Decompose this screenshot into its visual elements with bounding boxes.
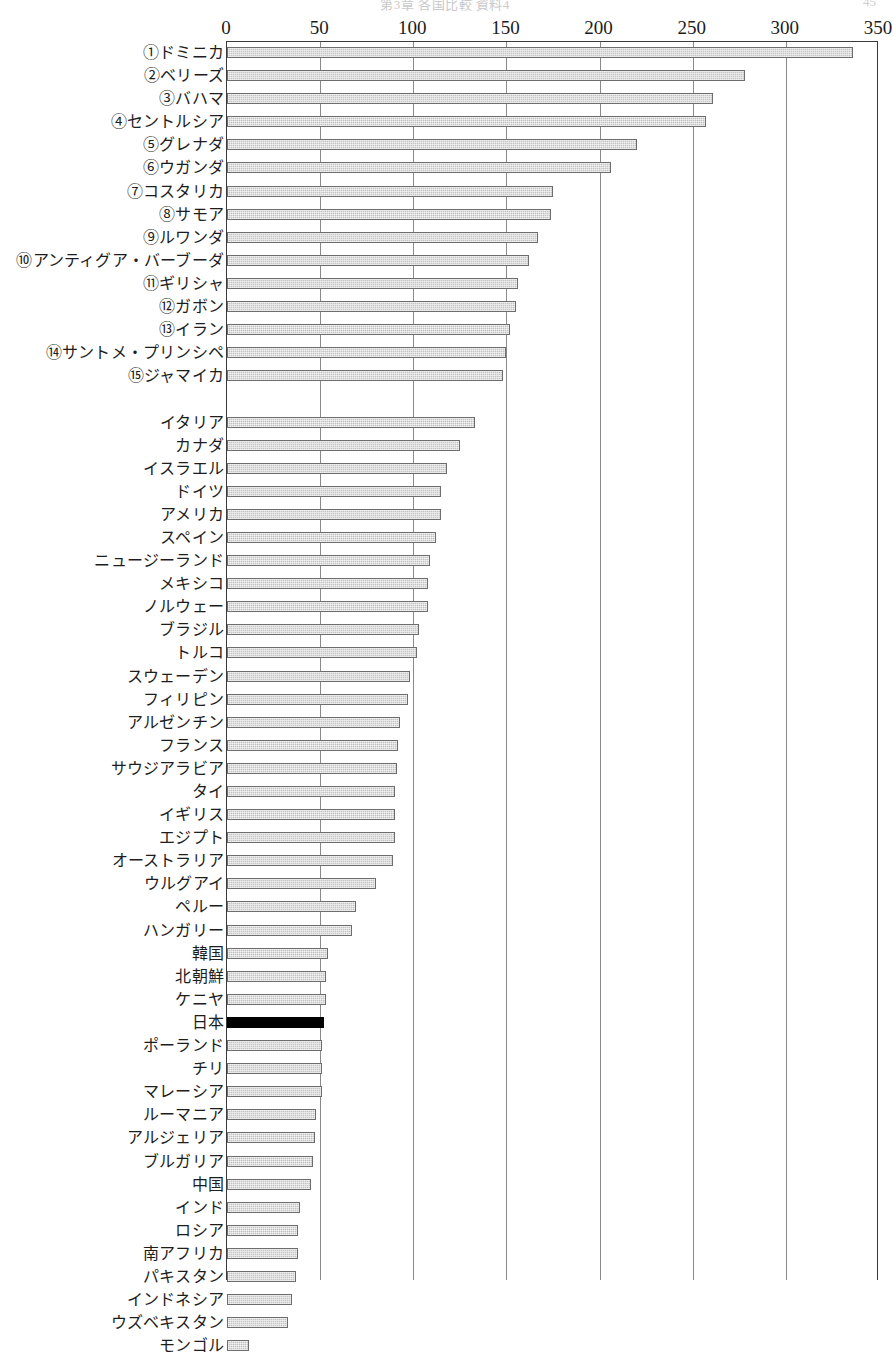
x-axis-tick-labels: 050100150200250300350 [0, 18, 890, 40]
bar-track [227, 1063, 322, 1074]
bar-label: サウジアラビア [111, 758, 224, 779]
bar-row: インドネシア [0, 1288, 890, 1311]
bar-row: マレーシア [0, 1080, 890, 1103]
bar-label: ⑦コスタリカ [127, 181, 224, 202]
bar-track [227, 93, 713, 104]
bar [227, 1156, 313, 1167]
bar-row: ②ベリーズ [0, 64, 890, 87]
bar-label: インドネシア [127, 1289, 224, 1310]
bar-track [227, 1040, 322, 1051]
bar [227, 486, 441, 497]
bar-label: イタリア [160, 412, 224, 433]
bar-label: モンゴル [159, 1335, 224, 1356]
bar-track [227, 832, 395, 843]
bar-track [227, 925, 352, 936]
bar-row: サウジアラビア [0, 757, 890, 780]
bar-track [227, 786, 395, 797]
bar-row: 北朝鮮 [0, 965, 890, 988]
bar-row: スウェーデン [0, 665, 890, 688]
bar-track [227, 209, 551, 220]
bar-label: ペルー [175, 896, 224, 917]
bar-label: 日本 [192, 1012, 224, 1033]
bar-track [227, 1132, 315, 1143]
bar [227, 1179, 311, 1190]
bar [227, 809, 395, 820]
bar-row: ⑫ガボン [0, 295, 890, 318]
bar-label: ドイツ [175, 481, 224, 502]
bar [227, 1225, 298, 1236]
bar-track [227, 324, 510, 335]
group-separator [0, 387, 890, 410]
bar [227, 971, 326, 982]
bar-label: ①ドミニカ [143, 42, 224, 63]
bar-track [227, 1248, 298, 1259]
bar-label: パキスタン [143, 1266, 224, 1287]
bar-track [227, 370, 503, 381]
bar-row: 南アフリカ [0, 1242, 890, 1265]
bar-label: ③バハマ [159, 88, 224, 109]
bar-track [227, 763, 397, 774]
bar-track [227, 624, 419, 635]
bar-row: オーストラリア [0, 849, 890, 872]
x-tick-label-50: 50 [310, 18, 329, 38]
bar-row: アメリカ [0, 503, 890, 526]
bar-row: チリ [0, 1057, 890, 1080]
bar-track [227, 948, 328, 959]
bar-label: タイ [192, 781, 224, 802]
bar-row: エジプト [0, 826, 890, 849]
bar-label: ニュージーランド [94, 550, 224, 571]
bar [227, 786, 395, 797]
bar-row: 日本 [0, 1011, 890, 1034]
bar [227, 209, 551, 220]
bar-track [227, 417, 475, 428]
bar-row: ③バハマ [0, 87, 890, 110]
bar-label: ⑮ジャマイカ [128, 365, 224, 386]
bar-row: ペルー [0, 895, 890, 918]
x-tick-label-150: 150 [491, 18, 520, 38]
bar [227, 901, 356, 912]
bar-row: イスラエル [0, 457, 890, 480]
bar-row: 中国 [0, 1173, 890, 1196]
bar [227, 855, 393, 866]
bar [227, 532, 436, 543]
bar-row: メキシコ [0, 572, 890, 595]
bar-row: ブルガリア [0, 1150, 890, 1173]
x-tick-label-200: 200 [584, 18, 613, 38]
bar-label: スウェーデン [127, 666, 224, 687]
bar-row: ドイツ [0, 480, 890, 503]
bar-row: フィリピン [0, 688, 890, 711]
bar-label: ⑪ギリシャ [143, 273, 224, 294]
bar [227, 717, 400, 728]
bar-track [227, 647, 417, 658]
bar-row: ブラジル [0, 618, 890, 641]
bar-track [227, 1086, 322, 1097]
bar-track [227, 347, 506, 358]
bar-label: アメリカ [160, 504, 224, 525]
bar-row: ノルウェー [0, 595, 890, 618]
bar-label: ブルガリア [143, 1151, 224, 1172]
bar-label: ⑤グレナダ [143, 134, 224, 155]
bar-row: イギリス [0, 803, 890, 826]
bar [227, 555, 430, 566]
bar-track [227, 463, 447, 474]
bar-label: アルジェリア [127, 1127, 224, 1148]
bar-label: トルコ [175, 642, 224, 663]
bar-row: フランス [0, 734, 890, 757]
bar-track [227, 139, 637, 150]
bar-track [227, 278, 518, 289]
bar-label: ⑨ルワンダ [143, 227, 224, 248]
bar-label: 韓国 [192, 943, 224, 964]
bar [227, 116, 706, 127]
bar [227, 925, 352, 936]
bar-track [227, 555, 430, 566]
bar-row: イタリア [0, 411, 890, 434]
bar-label: ウルグアイ [144, 873, 224, 894]
bar-row: ⑪ギリシャ [0, 272, 890, 295]
bar [227, 948, 328, 959]
bar-track [227, 1317, 288, 1328]
bar [227, 1271, 296, 1282]
bar [227, 1340, 249, 1351]
bar-label: ポーランド [143, 1035, 224, 1056]
bar-track [227, 601, 428, 612]
bar-row: ⑤グレナダ [0, 133, 890, 156]
